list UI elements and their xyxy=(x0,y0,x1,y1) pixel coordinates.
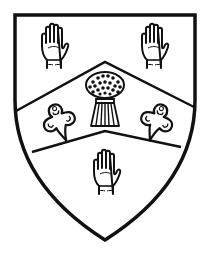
shield-emblem xyxy=(0,0,208,253)
coat-of-arms xyxy=(0,0,208,253)
